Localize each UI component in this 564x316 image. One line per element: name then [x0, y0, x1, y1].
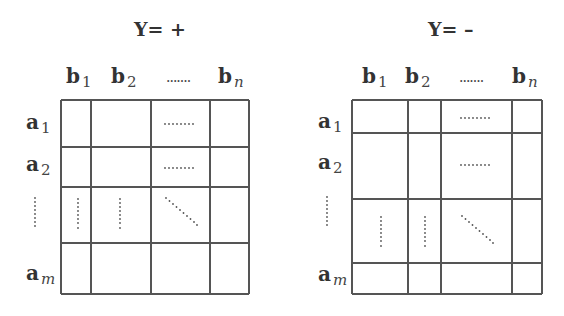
horizontal-dots-icon [460, 164, 490, 166]
diagonal-dots-icon [461, 215, 494, 244]
row-ellipsis-icon [326, 196, 328, 226]
vertical-dots-icon [380, 216, 382, 247]
horizontal-dots-icon [460, 117, 490, 119]
grid-lines [352, 100, 542, 294]
vertical-dots-icon [424, 216, 426, 247]
grid-y-minus [0, 0, 564, 316]
panel-y-minus: Y= – b1 b2 ....... bn a1 a2 am [0, 0, 564, 316]
